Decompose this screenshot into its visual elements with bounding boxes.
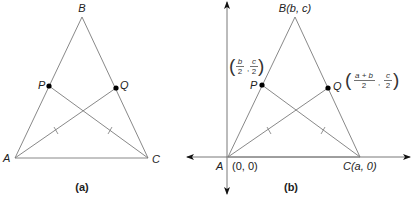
open-paren: ( [345, 69, 352, 90]
figure-canvas: B A C P Q (a) B(b, c) A (0, 0) C(a, 0) P… [0, 0, 411, 199]
point-p [46, 83, 51, 88]
label-q: Q [120, 79, 129, 91]
label-c: C(a, 0) [343, 160, 377, 172]
point-q [325, 85, 330, 90]
p-y-numerator: c [252, 57, 256, 66]
label-a: A [2, 152, 10, 164]
q-x-denominator: 2 [362, 81, 367, 90]
open-paren: ( [229, 55, 236, 76]
label-b: B [78, 2, 85, 14]
label-b: B(b, c) [279, 2, 312, 14]
label-p: P [250, 79, 258, 91]
median-pc [262, 85, 360, 157]
p-coordinate: ( b 2 , c 2 ) [229, 55, 264, 76]
separator: , [247, 64, 249, 73]
close-paren: ) [258, 55, 264, 76]
separator: , [378, 78, 380, 87]
caption-a: (a) [75, 181, 89, 193]
median-pc [49, 86, 148, 158]
caption-b: (b) [284, 181, 298, 193]
label-q: Q [333, 80, 342, 92]
close-paren: ) [393, 69, 399, 90]
point-q [113, 85, 118, 90]
figure-b: B(b, c) A (0, 0) C(a, 0) P Q ( b 2 , c 2… [187, 2, 410, 194]
label-a-coord: (0, 0) [232, 160, 258, 172]
p-y-denominator: 2 [252, 67, 257, 76]
label-p: P [38, 79, 46, 91]
point-p [259, 82, 264, 87]
p-x-denominator: 2 [238, 67, 243, 76]
q-y-numerator: c [386, 71, 390, 80]
q-y-denominator: 2 [386, 81, 391, 90]
tick-mark [108, 127, 112, 134]
p-x-numerator: b [238, 57, 243, 66]
q-x-numerator: a + b [355, 71, 374, 80]
label-a: A [215, 160, 223, 172]
q-coordinate: ( a + b 2 , c 2 ) [345, 69, 399, 90]
label-c: C [152, 153, 160, 165]
figure-a: B A C P Q (a) [2, 2, 160, 193]
